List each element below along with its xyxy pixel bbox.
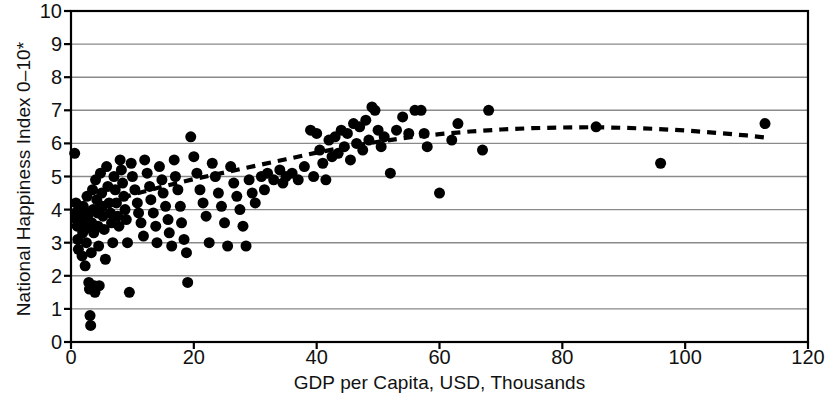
- data-point: [760, 118, 771, 129]
- data-point: [419, 128, 430, 139]
- scatter-chart-figure: National Happiness Index 0–10* GDP per C…: [0, 0, 833, 402]
- plot-area: [0, 0, 833, 402]
- data-point: [391, 125, 402, 136]
- data-point: [118, 191, 129, 202]
- data-point: [116, 164, 127, 175]
- data-point: [136, 217, 147, 228]
- x-tick-label-120: 120: [778, 347, 833, 367]
- data-point: [85, 320, 96, 331]
- data-point: [370, 105, 381, 116]
- data-point: [385, 168, 396, 179]
- data-points-group: [69, 101, 770, 330]
- x-tick-label-20: 20: [164, 347, 224, 367]
- data-point: [163, 214, 174, 225]
- data-point: [204, 237, 215, 248]
- data-point: [124, 287, 135, 298]
- data-point: [120, 204, 131, 215]
- data-point: [122, 237, 133, 248]
- data-point: [182, 277, 193, 288]
- data-point: [145, 194, 156, 205]
- y-tick-label-5: 5: [28, 167, 62, 187]
- data-point: [164, 227, 175, 238]
- data-point: [188, 151, 199, 162]
- data-point: [127, 171, 138, 182]
- x-tick-label-0: 0: [41, 347, 101, 367]
- data-point: [446, 135, 457, 146]
- data-point: [655, 158, 666, 169]
- data-point: [181, 247, 192, 258]
- data-point: [379, 131, 390, 142]
- data-point: [477, 145, 488, 156]
- data-point: [314, 145, 325, 156]
- data-point: [247, 188, 258, 199]
- y-tick-label-3: 3: [28, 233, 62, 253]
- data-point: [311, 128, 322, 139]
- data-point: [133, 207, 144, 218]
- data-point: [231, 191, 242, 202]
- y-tick-label-9: 9: [28, 34, 62, 54]
- data-point: [121, 214, 132, 225]
- data-point: [241, 241, 252, 252]
- data-point: [363, 135, 374, 146]
- data-point: [250, 197, 261, 208]
- data-point: [151, 237, 162, 248]
- x-tick-label-100: 100: [655, 347, 715, 367]
- data-point: [94, 280, 105, 291]
- data-point: [176, 217, 187, 228]
- data-point: [207, 158, 218, 169]
- data-point: [101, 161, 112, 172]
- x-tick-label-60: 60: [410, 347, 470, 367]
- x-tick-label-40: 40: [287, 347, 347, 367]
- data-point: [139, 154, 150, 165]
- data-point: [213, 188, 224, 199]
- y-tick-label-10: 10: [28, 1, 62, 21]
- data-point: [339, 141, 350, 152]
- data-point: [259, 184, 270, 195]
- data-point: [228, 178, 239, 189]
- data-point: [132, 197, 143, 208]
- data-point: [175, 201, 186, 212]
- data-point: [452, 118, 463, 129]
- data-point: [591, 121, 602, 132]
- data-point: [219, 217, 230, 228]
- data-point: [210, 171, 221, 182]
- data-point: [100, 254, 111, 265]
- data-point: [376, 141, 387, 152]
- data-point: [117, 178, 128, 189]
- gridlines-group: [71, 44, 808, 309]
- data-point: [80, 260, 91, 271]
- data-point: [483, 105, 494, 116]
- data-point: [169, 154, 180, 165]
- data-point: [191, 168, 202, 179]
- data-point: [397, 111, 408, 122]
- data-point: [345, 154, 356, 165]
- data-point: [237, 221, 248, 232]
- data-point: [403, 128, 414, 139]
- data-point: [185, 131, 196, 142]
- data-point: [357, 145, 368, 156]
- y-tick-labels: 012345678910: [26, 0, 62, 402]
- x-tick-label-80: 80: [532, 347, 592, 367]
- data-point: [144, 181, 155, 192]
- data-point: [194, 184, 205, 195]
- data-point: [142, 168, 153, 179]
- data-point: [201, 211, 212, 222]
- data-point: [158, 188, 169, 199]
- data-point: [69, 148, 80, 159]
- data-point: [126, 158, 137, 169]
- data-point: [172, 184, 183, 195]
- y-tick-label-7: 7: [28, 100, 62, 120]
- data-point: [320, 174, 331, 185]
- data-point: [148, 207, 159, 218]
- data-point: [81, 237, 92, 248]
- data-point: [93, 241, 104, 252]
- data-point: [150, 221, 161, 232]
- data-point: [422, 141, 433, 152]
- data-point: [107, 237, 118, 248]
- data-point: [222, 241, 233, 252]
- data-point: [360, 115, 371, 126]
- data-point: [170, 171, 181, 182]
- data-point: [416, 105, 427, 116]
- data-point: [299, 161, 310, 172]
- data-point: [225, 161, 236, 172]
